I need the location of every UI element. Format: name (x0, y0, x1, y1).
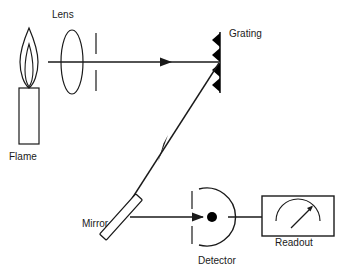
grating-tooth-1 (212, 33, 220, 47)
label-mirror: Mirror (82, 219, 108, 229)
detector-sensor-dot (207, 212, 217, 222)
candle-body (19, 88, 39, 144)
readout-icon[interactable] (262, 196, 334, 236)
optical-schematic-svg (0, 0, 348, 276)
grating-tooth-3 (212, 63, 220, 77)
grating-tooth-2 (212, 48, 220, 62)
label-readout: Readout (275, 238, 313, 248)
label-flame: Flame (9, 152, 37, 162)
detector-beam-arrowhead (192, 213, 204, 222)
readout-box[interactable] (262, 196, 334, 236)
grating-tooth-4 (212, 78, 220, 92)
grating-to-mirror-beam (124, 63, 219, 211)
incident-beam-arrowhead (160, 58, 172, 67)
candle-flame-icon (19, 28, 39, 144)
label-lens: Lens (52, 10, 74, 20)
label-grating: Grating (229, 29, 262, 39)
diagram-canvas: Lens Flame Grating Mirror Detector Reado… (0, 0, 348, 276)
diffracted-beam-arrowhead (158, 135, 168, 162)
label-detector: Detector (198, 256, 236, 266)
diffracted-beam-line (124, 63, 219, 211)
mirror-to-detector-beam (130, 213, 204, 222)
